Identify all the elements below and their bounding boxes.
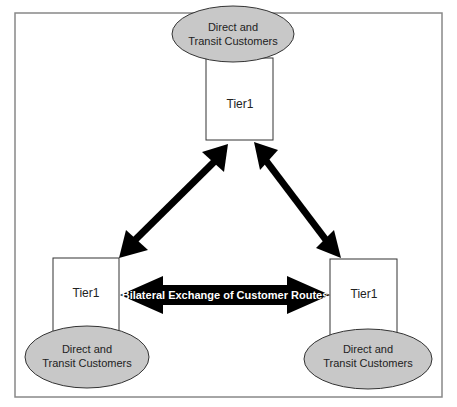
customers-label-left-line2: Transit Customers: [42, 357, 132, 369]
bilateral-exchange-arrow: Bilateral Exchange of Customer Routes: [120, 276, 330, 314]
bidirectional-arrow-top-right: [254, 142, 341, 258]
customers-label-top-line2: Transit Customers: [188, 35, 278, 47]
peering-diagram: Tier1 Direct and Transit Customers Tier1…: [0, 0, 457, 407]
tier1-label-top: Tier1: [227, 97, 254, 111]
tier1-node-right: Tier1 Direct and Transit Customers: [304, 259, 432, 389]
customers-label-top-line1: Direct and: [208, 21, 258, 33]
customers-ellipse-top: [172, 6, 294, 62]
customers-label-left-line1: Direct and: [62, 343, 112, 355]
tier1-label-right: Tier1: [351, 287, 378, 301]
customers-label-right-line2: Transit Customers: [323, 357, 413, 369]
customers-label-right-line1: Direct and: [343, 343, 393, 355]
bidirectional-arrow-top-left: [119, 144, 228, 258]
tier1-node-top: Tier1 Direct and Transit Customers: [172, 6, 294, 140]
bilateral-exchange-label: Bilateral Exchange of Customer Routes: [122, 289, 329, 301]
tier1-node-left: Tier1 Direct and Transit Customers: [25, 258, 149, 388]
tier1-label-left: Tier1: [73, 286, 100, 300]
